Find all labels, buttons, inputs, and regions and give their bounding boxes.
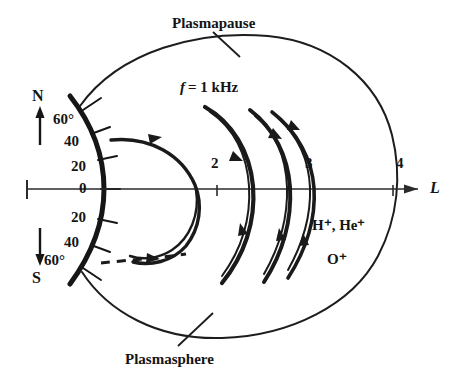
north-direction-arrow <box>35 106 44 145</box>
latitude-label-40n: 40 <box>64 134 79 149</box>
ray-path-2 <box>205 107 253 283</box>
ray-path-1-return <box>130 190 197 258</box>
north-pole-label: N <box>32 88 44 104</box>
frequency-value: = 1 kHz <box>188 79 238 95</box>
heavy-ion-text: O⁺ <box>327 251 347 267</box>
heavy-ion-label: O⁺ <box>327 252 347 267</box>
latitude-label-20s: 20 <box>71 210 86 225</box>
latitude-label-20n: 20 <box>71 159 86 174</box>
plasmasphere-label: Plasmasphere <box>125 352 214 367</box>
diagram-canvas <box>0 0 463 377</box>
latitude-label-60s: 60° <box>44 253 65 268</box>
light-ions-text: H⁺, He⁺ <box>312 217 366 233</box>
plasmasphere-leader-line <box>178 313 213 346</box>
latitude-label-40s: 40 <box>64 235 79 250</box>
frequency-label: f= 1 kHz <box>180 80 238 95</box>
plasmapause-oval <box>80 35 397 338</box>
ray-path-4-arrowhead-upper <box>287 120 300 130</box>
south-pole-label: S <box>32 270 41 286</box>
ray-path-1-arrowhead-upper <box>148 134 162 144</box>
plasmapause-label: Plasmapause <box>172 16 255 31</box>
l-tick-2: 2 <box>211 156 219 171</box>
plasmasphere-figure: Plasmapause Plasmasphere f= 1 kHz L 2 3 … <box>0 0 463 377</box>
l-tick-3: 3 <box>305 156 313 171</box>
l-axis-label: L <box>430 180 440 196</box>
latitude-label-0: 0 <box>79 181 87 196</box>
l-tick-4: 4 <box>396 156 404 171</box>
ray-path-1 <box>111 139 199 263</box>
earth-limb-arc <box>70 96 104 284</box>
latitude-label-60n: 60° <box>53 112 74 127</box>
frequency-symbol: f <box>180 79 185 95</box>
light-ions-label: H⁺, He⁺ <box>312 218 366 233</box>
